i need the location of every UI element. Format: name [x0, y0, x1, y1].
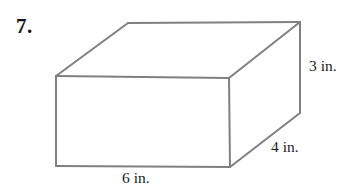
problem-number: 7.: [16, 16, 33, 37]
dimension-label-depth: 4 in.: [271, 139, 299, 155]
edge-front-right-vertical: [229, 78, 230, 167]
prism-figure: 7. 3 in. 4 in. 6 in.: [0, 0, 354, 192]
rectangular-prism-drawing: [0, 0, 354, 192]
edge-top-back: [128, 22, 300, 23]
dimension-label-height: 3 in.: [309, 58, 337, 74]
prism-front-face: [56, 76, 230, 167]
dimension-label-width: 6 in.: [122, 170, 150, 186]
edge-front-bottom: [56, 166, 230, 167]
